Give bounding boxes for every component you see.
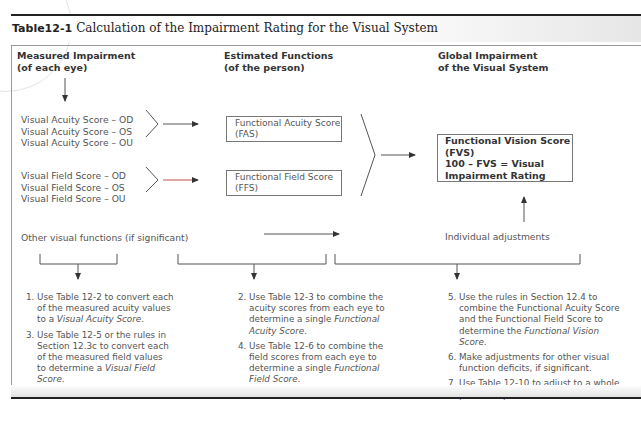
step-4: 4.Use Table 12-6 to combine the field sc…	[238, 341, 388, 386]
steps-col1: 1.Use Table 12-2 to convert each of the …	[26, 292, 174, 390]
step-2: 2.Use Table 12-3 to combine the acuity s…	[238, 292, 388, 337]
chevron-icon	[146, 110, 158, 137]
bracket-col1	[40, 254, 117, 264]
bracket-col2	[178, 254, 326, 264]
steps-col2: 2.Use Table 12-3 to combine the acuity s…	[238, 292, 388, 390]
step-5: 5.Use the rules in Section 12.4 to combi…	[448, 292, 628, 348]
bottom-rule	[11, 397, 641, 399]
bracket-col3	[335, 254, 580, 264]
step-1: 1.Use Table 12-2 to convert each of the …	[26, 292, 174, 326]
bottom-band	[11, 385, 641, 397]
chevron-icon	[146, 167, 158, 192]
step-6: 6.Make adjustments for other visual func…	[448, 352, 628, 374]
step-3: 3.Use Table 12-5 or the rules in Section…	[26, 330, 174, 386]
big-chevron-icon	[361, 114, 375, 196]
